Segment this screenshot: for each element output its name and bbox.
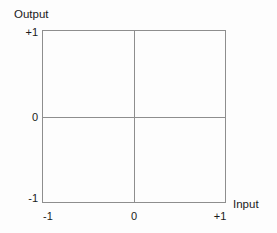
y-tick-label-zero: 0	[8, 111, 38, 123]
y-tick-label-plus-one: +1	[8, 26, 38, 38]
plot-frame	[42, 30, 226, 203]
chart-canvas: Output Input +1 0 -1 -1 0 +1	[0, 0, 277, 233]
x-tick-label-minus-one: -1	[31, 210, 65, 222]
x-tick-label-plus-one: +1	[203, 210, 237, 222]
zero-vertical-axis	[134, 31, 135, 202]
y-tick-label-minus-one: -1	[8, 192, 38, 204]
x-tick-label-zero: 0	[117, 210, 151, 222]
x-axis-title: Input	[233, 198, 259, 210]
y-axis-title: Output	[14, 8, 49, 20]
